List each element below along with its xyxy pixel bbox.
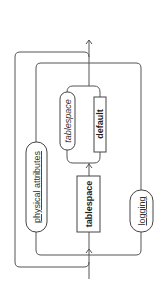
tablespace-keyword-node[interactable]: tablespace (77, 176, 100, 232)
default-keyword-label: default (95, 109, 105, 139)
branch-default-bottom (89, 152, 100, 163)
inner-loop-right-bottom (89, 232, 141, 255)
default-keyword-node[interactable]: default (94, 97, 106, 152)
logging-label: logging (137, 196, 147, 225)
physical-attributes-node[interactable]: physical attributes (26, 142, 47, 232)
railroad-diagram: physical attributes tablespace tablespac… (0, 0, 162, 290)
logging-node[interactable]: logging (130, 190, 153, 232)
tablespace-keyword-label: tablespace (84, 181, 94, 228)
branch-tablespace-name-bottom (67, 150, 89, 163)
tablespace-name-node[interactable]: tablespace (60, 92, 75, 150)
physical-attributes-label: physical attributes (32, 150, 42, 223)
tablespace-name-label: tablespace (63, 99, 73, 143)
